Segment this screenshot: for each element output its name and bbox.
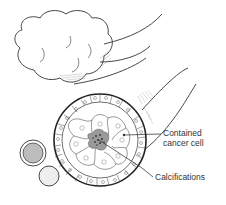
contained-label-line1: Contained	[163, 128, 204, 138]
lobule-cluster	[15, 11, 112, 83]
calcifications-label: Calcifications	[155, 172, 205, 182]
contained-cancer-cell-label: Contained cancer cell	[163, 128, 204, 148]
duct-cross-section	[54, 94, 146, 186]
calcification-spheres	[20, 140, 59, 186]
contained-label-line2: cancer cell	[163, 138, 204, 148]
